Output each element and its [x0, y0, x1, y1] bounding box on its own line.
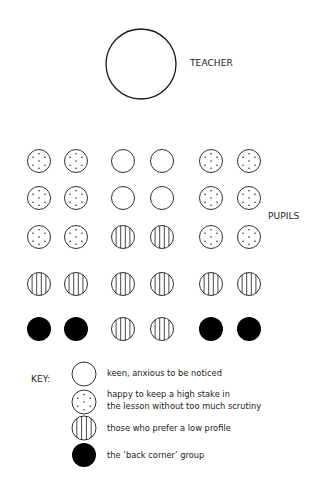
- pupil-dotted-icon: [28, 226, 51, 249]
- teacher-circle: [106, 29, 176, 99]
- pupil-striped-icon: [151, 318, 174, 341]
- pupil-dotted-icon: [65, 150, 88, 173]
- pupil-striped-icon: [200, 273, 223, 296]
- teacher-label: TEACHER: [190, 59, 233, 68]
- pupil-dotted-icon: [65, 187, 88, 210]
- key-symbols: [72, 362, 96, 467]
- key-text-low-profile: those who prefer a low profile: [107, 422, 231, 434]
- key-open-icon: [72, 362, 96, 386]
- pupil-striped-icon: [65, 273, 88, 296]
- pupil-striped-icon: [112, 318, 135, 341]
- pupil-striped-icon: [151, 273, 174, 296]
- pupil-open-icon: [151, 150, 174, 173]
- pupil-black-icon: [64, 317, 88, 341]
- pupil-dotted-icon: [200, 187, 223, 210]
- pupil-striped-icon: [112, 273, 135, 296]
- key-dotted-icon: [72, 390, 96, 414]
- pupil-open-icon: [112, 187, 135, 210]
- pupil-dotted-icon: [238, 187, 261, 210]
- pupil-striped-icon: [112, 226, 135, 249]
- pupil-black-icon: [199, 317, 223, 341]
- key-text-happy-line2: the lesson without too much scrutiny: [107, 400, 261, 412]
- pupil-dotted-icon: [238, 226, 261, 249]
- pupils-label: PUPILS: [268, 212, 299, 221]
- key-text-back-corner: the ‘back corner’ group: [107, 449, 204, 461]
- key-text-keen: keen, anxious to be noticed: [107, 367, 222, 379]
- pupil-striped-icon: [151, 226, 174, 249]
- pupil-open-icon: [112, 150, 135, 173]
- pupil-dotted-icon: [65, 226, 88, 249]
- pupil-dotted-icon: [200, 150, 223, 173]
- pupil-striped-icon: [238, 273, 261, 296]
- pupil-dotted-icon: [200, 226, 223, 249]
- pupil-grid: [27, 150, 261, 342]
- key-text-happy-line1: happy to keep a high stake in: [107, 388, 230, 400]
- seating-diagram: [0, 0, 309, 493]
- key-black-icon: [72, 443, 96, 467]
- pupil-dotted-icon: [28, 150, 51, 173]
- key-striped-icon: [72, 416, 96, 440]
- pupil-black-icon: [237, 317, 261, 341]
- pupil-dotted-icon: [28, 187, 51, 210]
- key-title: KEY:: [31, 375, 50, 384]
- pupil-open-icon: [151, 187, 174, 210]
- pupil-striped-icon: [28, 273, 51, 296]
- pupil-black-icon: [27, 317, 51, 341]
- pupil-dotted-icon: [238, 150, 261, 173]
